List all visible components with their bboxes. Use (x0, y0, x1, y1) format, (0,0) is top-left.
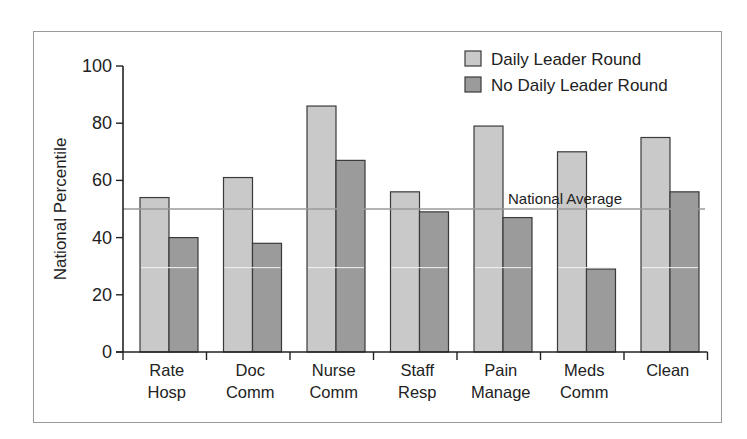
y-tick-label: 100 (82, 56, 112, 76)
x-tick-label: Comm (226, 383, 275, 401)
y-tick-label: 0 (102, 342, 112, 362)
bar-daily-meds-comm (558, 152, 587, 352)
bar-daily-staff-resp (391, 192, 420, 352)
x-tick-label: Staff (400, 361, 434, 379)
bar-daily-clean (641, 138, 670, 353)
bars-group (140, 106, 699, 352)
y-tick-label: 80 (92, 113, 112, 133)
x-tick-label: Meds (564, 361, 604, 379)
x-tick-label: Comm (309, 383, 358, 401)
bar-chart: National Average 020406080100RateHospDoc… (0, 0, 747, 439)
x-tick-label: Doc (236, 361, 265, 379)
y-axis-label: National Percentile (51, 138, 70, 281)
bar-daily-rate-hosp (140, 198, 169, 352)
legend-label-daily: Daily Leader Round (491, 50, 641, 69)
x-tick-label: Pain (484, 361, 517, 379)
y-tick-label: 20 (92, 285, 112, 305)
bar-no-daily-clean (670, 192, 699, 352)
x-tick-label: Manage (471, 383, 531, 401)
national-average-label: National Average (508, 190, 622, 207)
bar-no-daily-staff-resp (420, 212, 449, 352)
bar-no-daily-meds-comm (587, 269, 616, 352)
legend-swatch-daily (465, 51, 481, 66)
legend: Daily Leader RoundNo Daily Leader Round (465, 50, 668, 95)
bar-no-daily-nurse-comm (336, 160, 365, 352)
bar-no-daily-rate-hosp (169, 238, 198, 352)
legend-label-no-daily: No Daily Leader Round (491, 76, 668, 95)
bar-daily-pain-manage (474, 126, 503, 352)
x-tick-label: Comm (560, 383, 609, 401)
x-tick-label: Nurse (312, 361, 356, 379)
x-tick-label: Clean (646, 361, 689, 379)
x-tick-label: Resp (398, 383, 437, 401)
bar-daily-nurse-comm (307, 106, 336, 352)
legend-swatch-no-daily (465, 77, 481, 92)
y-tick-label: 60 (92, 170, 112, 190)
x-tick-label: Hosp (147, 383, 186, 401)
x-tick-label: Rate (149, 361, 184, 379)
bar-daily-doc-comm (224, 178, 253, 352)
bar-no-daily-pain-manage (503, 218, 532, 352)
y-tick-label: 40 (92, 228, 112, 248)
bar-no-daily-doc-comm (253, 243, 282, 352)
